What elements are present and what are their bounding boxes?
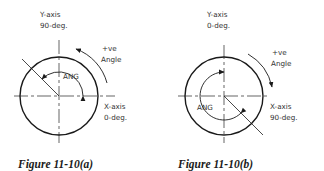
x-axis-value: 90-deg. [270,113,298,122]
angle-label: ANG [197,103,213,112]
direction-label-2: Angle [271,59,292,68]
angle-line [22,59,59,96]
figure-caption: Figure 11-10(b) [177,158,253,171]
diagram-canvas: Y-axis 90-deg. +ve Angle ANG X-axis 0-de… [0,0,324,171]
x-axis-value: 0-deg. [104,113,127,122]
x-axis-label: X-axis [270,102,292,111]
figure-b: Y-axis 0-deg. +ve Angle ANG X-axis 90-de… [177,10,298,171]
direction-label-2: Angle [101,55,122,64]
y-axis-label: Y-axis [206,10,228,19]
direction-label-1: +ve [102,44,117,53]
angle-label: ANG [63,72,79,81]
figure-a: Y-axis 90-deg. +ve Angle ANG X-axis 0-de… [14,10,127,171]
y-axis-label: Y-axis [39,10,61,19]
y-axis-value: 90-deg. [40,21,68,30]
y-axis-value: 0-deg. [207,21,230,30]
direction-label-1: +ve [272,48,287,57]
figure-caption: Figure 11-10(a) [17,158,93,171]
x-axis-label: X-axis [104,102,126,111]
